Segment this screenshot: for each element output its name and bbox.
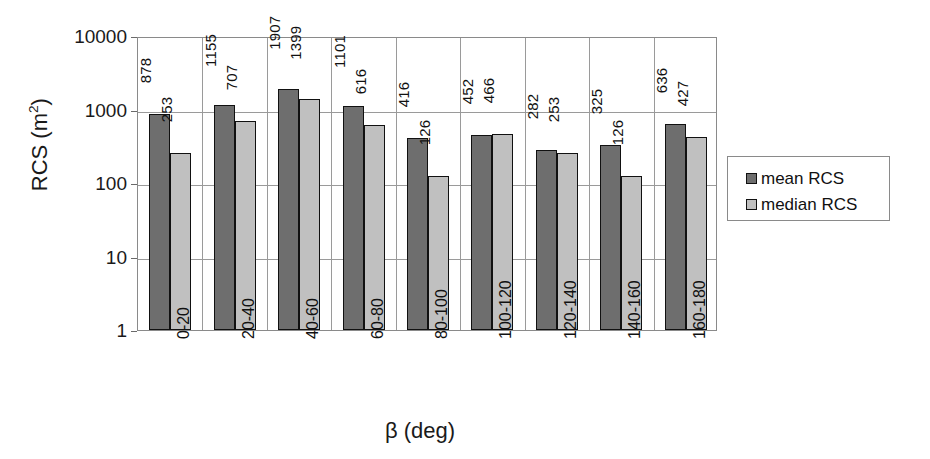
y-axis-tick-label: 10 [106,248,127,267]
y-axis-tick-mark [131,258,137,259]
bar-value-label: 325 [589,89,604,115]
y-axis-tick-mark [131,331,137,332]
y-axis-title-superscript: 2 [26,105,41,113]
x-axis-title: β (deg) [330,419,510,443]
bar-mean [214,105,235,330]
bar-mean [149,114,170,330]
bar-value-label: 253 [159,97,174,123]
bar-value-label: 282 [525,94,540,120]
bar-mean [471,135,492,330]
x-axis-tick-label: 120-140 [563,280,579,339]
bar-value-label: 126 [610,119,625,145]
x-axis-tick-label: 0-20 [176,307,192,339]
bar-mean [343,106,364,330]
bar-value-label: 1907 [267,16,282,50]
gridline-vertical [202,38,203,330]
bar-value-label: 427 [675,80,690,106]
legend-label-median: median RCS [761,196,857,213]
gridline-vertical [331,38,332,330]
bar-mean [407,138,428,331]
bar-value-label: 616 [353,69,368,95]
bar-mean [278,89,299,330]
bar-mean [536,150,557,330]
bar-mean [600,145,621,330]
gridline-vertical [267,38,268,330]
y-axis-tick-mark [131,184,137,185]
bar-value-label: 452 [460,79,475,105]
gridline-vertical [589,38,590,330]
bar-group: 416126 [407,38,449,330]
bar-group: 1101616 [343,38,385,330]
bar-median [170,153,191,330]
chart-legend: mean RCS median RCS [727,156,890,221]
legend-entry-mean: mean RCS [746,166,889,190]
bar-group: 1155707 [214,38,256,330]
legend-swatch-mean-icon [746,173,757,184]
bar-median [299,99,320,330]
bar-value-label: 466 [481,78,496,104]
legend-label-mean: mean RCS [761,170,844,187]
y-axis-tick-label: 1 [116,321,127,340]
y-axis-title: RCS (m2) [22,60,51,230]
bar-value-label: 416 [396,81,411,107]
gridline-vertical [525,38,526,330]
bar-value-label: 253 [546,97,561,123]
bar-value-label: 126 [417,119,432,145]
x-axis-tick-label: 100-120 [498,280,514,339]
bar-value-label: 1155 [203,34,218,67]
y-axis-tick-label: 100 [95,174,127,193]
bar-value-label: 878 [138,57,153,83]
bar-value-label: 636 [654,68,669,94]
x-axis-tick-label: 60-80 [370,298,386,339]
bar-mean [665,124,686,330]
y-axis-tick-labels: 100001000100101 [0,0,127,459]
x-axis-tick-label: 20-40 [241,298,257,339]
rcs-bar-chart: 100001000100101 RCS (m2) 878253115570719… [0,0,930,459]
bar-group: 19071399 [278,38,320,330]
bar-value-label: 1399 [288,25,303,59]
x-axis-tick-label: 140-160 [627,280,643,339]
y-axis-tick-label: 10000 [74,27,127,46]
legend-swatch-median-icon [746,199,757,210]
y-axis-title-suffix: ) [27,98,52,105]
bar-value-label: 707 [224,64,239,90]
bar-group: 878253 [149,38,191,330]
y-axis-title-text: RCS (m [27,113,52,191]
x-axis-tick-labels: 0-2020-4040-6060-8080-100100-120120-1401… [137,331,717,431]
x-axis-tick-label: 160-180 [692,280,708,339]
x-axis-tick-label: 40-60 [305,298,321,339]
bar-value-label: 1101 [332,35,347,68]
x-axis-tick-label: 80-100 [434,289,450,339]
y-axis-tick-label: 1000 [85,101,127,120]
y-axis-tick-mark [131,37,137,38]
legend-entry-median: median RCS [746,192,889,216]
y-axis-tick-mark [131,111,137,112]
